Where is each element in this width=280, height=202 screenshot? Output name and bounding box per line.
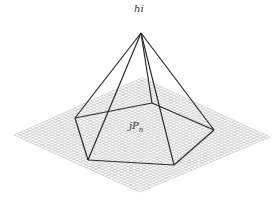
diagram-canvas: [0, 0, 280, 202]
apex-label: hi: [134, 3, 144, 14]
grid-plane: [14, 78, 270, 192]
lateral-edge: [141, 33, 214, 130]
base-label-main: P: [132, 120, 139, 131]
base-region-label: jPn: [129, 120, 143, 134]
lateral-edge: [75, 33, 141, 118]
base-label-subscript: n: [139, 126, 144, 134]
pyramid-diagram: hi jPn: [0, 0, 280, 202]
